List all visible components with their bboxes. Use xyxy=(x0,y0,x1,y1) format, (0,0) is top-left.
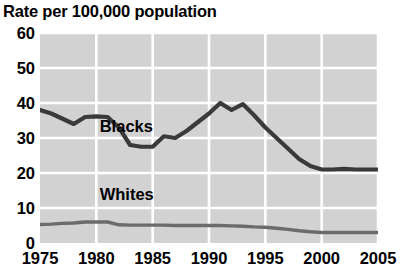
x-axis-tick-label: 1995 xyxy=(247,250,284,267)
chart-container: Rate per 100,000 population 010203040506… xyxy=(0,0,403,276)
x-axis-tick-label: 2005 xyxy=(360,250,397,267)
y-axis-tick-label: 50 xyxy=(0,60,35,77)
x-axis-tick-label: 1975 xyxy=(22,250,59,267)
series-label-whites: Whites xyxy=(100,186,154,203)
x-axis: 1975198019851990199520002005 xyxy=(0,250,403,276)
y-axis-tick-label: 10 xyxy=(0,200,35,217)
plot-area: Blacks Whites xyxy=(40,33,378,243)
x-axis-tick-label: 1980 xyxy=(78,250,115,267)
y-axis-tick-label: 20 xyxy=(0,165,35,182)
x-axis-tick-label: 1985 xyxy=(134,250,171,267)
series-label-blacks: Blacks xyxy=(100,118,153,135)
y-axis-tick-label: 30 xyxy=(0,130,35,147)
x-axis-tick-label: 1990 xyxy=(191,250,228,267)
y-axis: 0102030405060 xyxy=(0,0,36,276)
y-axis-tick-label: 60 xyxy=(0,25,35,42)
x-axis-tick-label: 2000 xyxy=(303,250,340,267)
plot-svg xyxy=(40,33,378,243)
y-axis-tick-label: 40 xyxy=(0,95,35,112)
